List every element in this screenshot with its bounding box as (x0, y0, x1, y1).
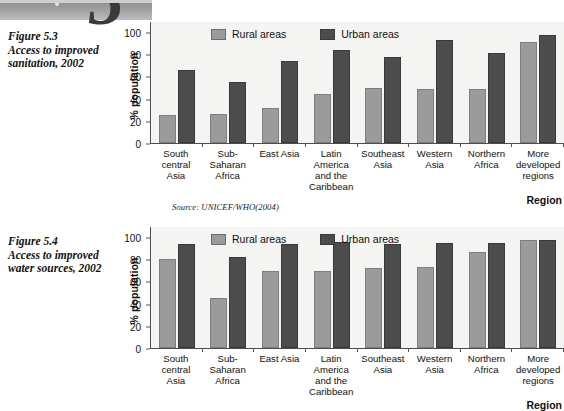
bar-rural (469, 89, 486, 143)
bar-rural (365, 88, 382, 143)
figure-5-4: % population 020406080100 Rural areas Ur… (118, 227, 564, 409)
y-tick-label: 20 (130, 321, 141, 332)
caption-line: sanitation, 2002 (8, 57, 120, 71)
x-tick-label: SoutheastAsia (357, 353, 409, 397)
x-tick-label-line: More (513, 353, 563, 364)
x-tick-label: LatinAmericaand theCaribbean (305, 353, 357, 397)
chart-area-2: % population 020406080100 Rural areas Ur… (118, 227, 564, 373)
bar-group (512, 22, 564, 143)
x-tick-label-line: Latin (306, 353, 356, 364)
bar-urban (384, 57, 401, 144)
x-tick-label-line: South (151, 353, 201, 364)
y-tick-label: 40 (130, 94, 141, 105)
x-tick-label-line: East Asia (255, 148, 305, 159)
x-axis-title-1: Region (526, 194, 562, 206)
x-axis-labels-2: SouthcentralAsiaSub-SaharanAfricaEast As… (150, 353, 564, 397)
bar-urban (539, 240, 556, 348)
x-tick-label-line: Sub- (203, 353, 253, 364)
bar-urban (229, 82, 246, 143)
x-tick-label-line: Asia (151, 375, 201, 386)
x-tick-label-line: Western (410, 353, 460, 364)
bar-group (151, 227, 203, 348)
bar-group (461, 227, 513, 348)
legend-swatch-urban-icon (320, 29, 335, 40)
x-tick-label-line: South (151, 148, 201, 159)
x-tick-label: Sub-SaharanAfrica (202, 353, 254, 397)
legend-swatch-urban-icon (320, 234, 335, 245)
bar-group (409, 22, 461, 143)
bar-group (254, 22, 306, 143)
x-tick-label-line: America (306, 159, 356, 170)
x-tick-label-line: Asia (358, 159, 408, 170)
bar-rural (314, 94, 331, 143)
x-tick-label: SouthcentralAsia (150, 353, 202, 397)
bar-urban (488, 243, 505, 348)
legend-1: Rural areas Urban areas (211, 28, 399, 40)
y-tick-label: 0 (135, 344, 141, 355)
legend-item-urban: Urban areas (320, 28, 399, 40)
legend-label-rural: Rural areas (232, 28, 286, 40)
x-tick-label: East Asia (254, 148, 306, 192)
bar-rural (210, 114, 227, 143)
x-axis-labels-1: SouthcentralAsiaSub-SaharanAfricaEast As… (150, 148, 564, 192)
bar-rural (417, 89, 434, 143)
bar-urban (436, 40, 453, 143)
bar-group (358, 227, 410, 348)
bar-group (461, 22, 513, 143)
x-tick-label: LatinAmericaand theCaribbean (305, 148, 357, 192)
chart-area-1: % population 020406080100 Rural areas Ur… (118, 22, 564, 168)
bar-urban (229, 257, 246, 348)
legend-swatch-rural-icon (211, 234, 226, 245)
bar-rural (469, 252, 486, 348)
bar-rural (159, 259, 176, 348)
bar-group (203, 227, 255, 348)
decoration-dot (55, 2, 59, 6)
x-tick-label-line: and the (306, 170, 356, 181)
caption-line: Figure 5.3 (8, 30, 120, 44)
bar-urban (384, 244, 401, 348)
x-tick-label: SoutheastAsia (357, 148, 409, 192)
y-tick-label: 60 (130, 277, 141, 288)
x-tick-label-line: central (151, 364, 201, 375)
bar-rural (159, 115, 176, 143)
x-tick-label-line: America (306, 364, 356, 375)
caption-line: water sources, 2002 (8, 262, 120, 276)
bar-rural (365, 268, 382, 348)
caption-line: Access to improved (8, 44, 120, 58)
bar-rural (520, 42, 537, 143)
x-tick-label-line: Africa (203, 375, 253, 386)
bar-group (358, 22, 410, 143)
y-tick-label: 100 (124, 233, 141, 244)
bar-rural (262, 108, 279, 143)
plot-wrap-2: % population 020406080100 Rural areas Ur… (118, 227, 564, 373)
y-tick-label: 20 (130, 116, 141, 127)
caption-line: Figure 5.4 (8, 235, 120, 249)
chapter-decoration-band: 5 (0, 0, 152, 20)
bar-urban (281, 244, 298, 348)
x-tick-label-line: Northern (462, 353, 512, 364)
x-tick-label-line: Western (410, 148, 460, 159)
plot-wrap-1: % population 020406080100 Rural areas Ur… (118, 22, 564, 168)
x-tick-label-line: regions (513, 170, 563, 181)
bar-rural (262, 271, 279, 348)
bar-urban (488, 53, 505, 143)
bar-urban (178, 70, 195, 143)
x-tick-label-line: Asia (358, 364, 408, 375)
x-tick-label: SouthcentralAsia (150, 148, 202, 192)
bar-group (409, 227, 461, 348)
figure-caption-1: Figure 5.3 Access to improved sanitation… (8, 30, 120, 71)
bar-urban (539, 35, 556, 143)
bar-group (512, 227, 564, 348)
bar-group (203, 22, 255, 143)
x-tick-label-line: Southeast (358, 148, 408, 159)
figure-5-3: % population 020406080100 Rural areas Ur… (118, 22, 564, 227)
x-tick-label-line: Sub- (203, 148, 253, 159)
x-tick-label: NorthernAfrica (461, 353, 513, 397)
legend-item-urban: Urban areas (320, 233, 399, 245)
y-tick-label: 0 (135, 139, 141, 150)
x-tick-label-line: Caribbean (306, 181, 356, 192)
bar-group (254, 227, 306, 348)
x-tick-label-line: Asia (410, 364, 460, 375)
legend-item-rural: Rural areas (211, 233, 286, 245)
x-tick-label-line: Southeast (358, 353, 408, 364)
